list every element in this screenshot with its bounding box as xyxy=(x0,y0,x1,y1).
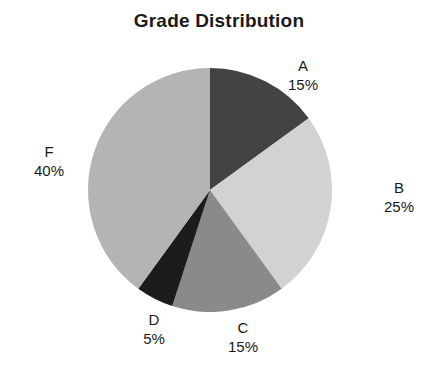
pie-label-a-name: A xyxy=(268,56,338,75)
pie-label-b: B 25% xyxy=(366,178,432,216)
pie-slices xyxy=(88,68,332,312)
pie-label-c: C 15% xyxy=(208,318,278,356)
pie-chart-figure: Grade Distribution A 15% B 25% C 15% D 5… xyxy=(0,0,438,380)
pie-label-d-value: 5% xyxy=(124,329,184,348)
pie-label-c-name: C xyxy=(208,318,278,337)
pie-label-c-value: 15% xyxy=(208,337,278,356)
pie-label-a-value: 15% xyxy=(268,75,338,94)
pie-label-d: D 5% xyxy=(124,310,184,348)
pie-label-b-name: B xyxy=(366,178,432,197)
pie-label-d-name: D xyxy=(124,310,184,329)
pie-label-f: F 40% xyxy=(16,142,82,180)
pie-svg xyxy=(88,68,332,312)
chart-title: Grade Distribution xyxy=(0,10,438,32)
pie-label-f-value: 40% xyxy=(16,161,82,180)
pie-chart-graphic xyxy=(88,68,332,312)
pie-label-b-value: 25% xyxy=(366,197,432,216)
pie-label-f-name: F xyxy=(16,142,82,161)
pie-label-a: A 15% xyxy=(268,56,338,94)
